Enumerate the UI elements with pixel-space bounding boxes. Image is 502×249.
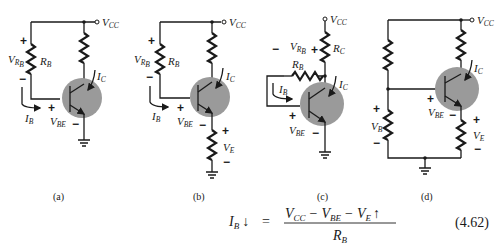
svg-text:−: − xyxy=(223,155,230,169)
svg-text:+: + xyxy=(20,34,27,48)
caption-a: (a) xyxy=(53,191,64,203)
resistor-rc-c xyxy=(321,32,329,62)
resistor-rb-b xyxy=(156,44,164,74)
svg-text:+: + xyxy=(48,101,55,115)
circuit-b: VCC + VRB RB − IC IB + VBE − + VE − (b) xyxy=(134,16,247,203)
rc-label-c: RC xyxy=(332,42,346,56)
caption-c: (c) xyxy=(317,191,328,203)
caption-b: (b) xyxy=(193,191,205,203)
svg-text:−: − xyxy=(19,72,26,86)
caption-d: (d) xyxy=(421,191,433,203)
svg-text:+: + xyxy=(427,92,434,106)
svg-text:+: + xyxy=(177,101,184,115)
circuit-c: VCC RC − VRB + RB IC IB + VBE − (c) xyxy=(267,13,349,203)
svg-text:+: + xyxy=(289,109,296,123)
svg-text:−: − xyxy=(373,136,380,150)
vrb-label-a: VRB xyxy=(8,53,24,69)
ic-label-a: IC xyxy=(96,70,107,84)
svg-text:+: + xyxy=(311,43,318,57)
ve-label-b: VE xyxy=(223,141,235,155)
resistor-r1-d xyxy=(384,40,392,70)
vbe-label-c: VBE xyxy=(289,124,305,138)
svg-text:−: − xyxy=(72,117,79,131)
resistor-re-b xyxy=(208,130,216,160)
vbe-label-d: VBE xyxy=(428,106,444,120)
svg-text:−: − xyxy=(146,70,153,84)
svg-text:−: − xyxy=(312,126,319,140)
vcc-label-a: VCC xyxy=(102,16,120,30)
resistor-re-d xyxy=(457,120,465,150)
resistor-r2-d xyxy=(384,110,392,140)
svg-text:−: − xyxy=(272,42,279,56)
ic-label-c: IC xyxy=(338,78,349,92)
vcc-label-b: VCC xyxy=(229,16,247,30)
equation-4-62: IB↓ = VCC−VBE−VE↑ RB (4.62) xyxy=(228,206,489,245)
svg-text:+: + xyxy=(373,102,380,116)
transistor-d xyxy=(435,67,479,111)
svg-text:=: = xyxy=(262,214,270,229)
ib-label-c: IB xyxy=(278,83,288,97)
ic-label-b: IC xyxy=(225,70,236,84)
rb-label-b: RB xyxy=(167,55,180,69)
svg-text:+: + xyxy=(148,34,155,48)
svg-text:−: − xyxy=(449,108,456,122)
circuit-figure: VCC + VRB RB − IC IB + VBE − (a) xyxy=(0,0,502,249)
circuit-a: VCC + VRB RB − IC IB + VBE − (a) xyxy=(8,16,120,203)
ib-label-b: IB xyxy=(151,110,161,124)
equation-lhs: IB↓ xyxy=(228,214,249,231)
ve-label-d: VE xyxy=(473,129,485,143)
svg-text:+: + xyxy=(222,124,229,138)
svg-text:+: + xyxy=(473,113,480,127)
equation-numerator: VCC−VBE−VE↑ xyxy=(285,206,380,223)
equation-number: (4.62) xyxy=(455,215,489,231)
vrb-label-b: VRB xyxy=(134,53,150,69)
svg-text:−: − xyxy=(474,142,481,156)
vcc-label-c: VCC xyxy=(330,13,348,27)
vrb-label-c: VRB xyxy=(290,40,306,56)
rb-label-a: RB xyxy=(39,55,52,69)
ic-label-d: IC xyxy=(473,62,484,76)
vbe-label-a: VBE xyxy=(50,115,66,129)
resistor-rb-a xyxy=(27,44,35,74)
rb-label-c: RB xyxy=(291,58,304,72)
vbe-label-b: VBE xyxy=(177,115,193,129)
ib-label-a: IB xyxy=(24,112,34,126)
equation-denominator: RB xyxy=(332,228,348,245)
vcc-label-d: VCC xyxy=(477,14,495,28)
circuit-d: VCC + VB − IC + VBE − + VE xyxy=(371,14,495,203)
svg-text:−: − xyxy=(199,118,206,132)
vb-label-d: VB xyxy=(371,120,383,134)
